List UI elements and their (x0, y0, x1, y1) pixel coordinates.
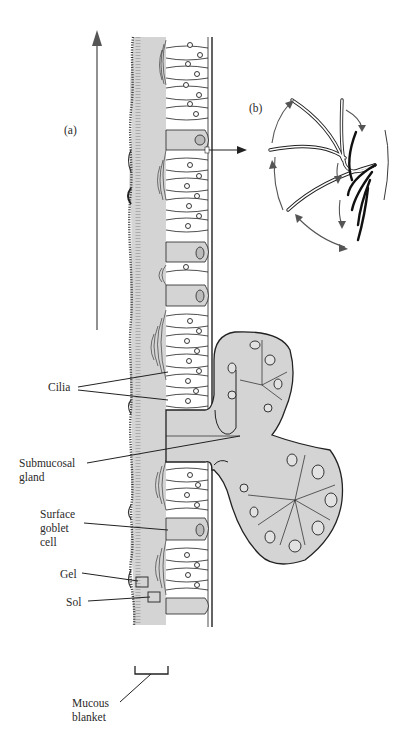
panel-label-b: (b) (249, 102, 262, 115)
label-mucous-blanket-line1: Mucous (72, 697, 109, 710)
label-cilia: Cilia (48, 381, 70, 394)
label-submucosal-gland-line2: gland (19, 471, 45, 484)
label-surface-goblet-line3: cell (40, 536, 57, 549)
label-sol: Sol (66, 596, 81, 609)
label-surface-goblet-line1: Surface (40, 508, 75, 521)
mucous-blanket-bracket (135, 666, 168, 674)
mucus-flow-arrow (92, 30, 102, 330)
label-surface-goblet-line2: goblet (40, 522, 69, 535)
panel-label-a: (a) (64, 124, 77, 137)
mucous-blanket (128, 37, 168, 625)
label-mucous-blanket-line2: blanket (72, 711, 106, 724)
label-submucosal-gland-line1: Submucosal (19, 457, 75, 470)
airway-epithelium-diagram (0, 0, 398, 746)
cilium-beat-cycle (269, 100, 388, 252)
label-gel: Gel (60, 568, 77, 581)
